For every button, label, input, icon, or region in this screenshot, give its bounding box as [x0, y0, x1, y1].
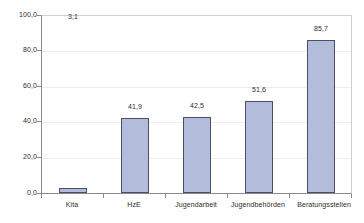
bar-jugendbehoerden[interactable] [245, 101, 273, 193]
x-axis-tick-mark [41, 194, 42, 198]
bar-kita[interactable] [59, 188, 87, 193]
x-axis-tick-mark [103, 194, 104, 198]
bar-hze[interactable] [121, 118, 149, 193]
bar-value-label: 3,1 [68, 13, 78, 21]
y-axis-tick-label: 20,0 [5, 153, 37, 161]
y-axis-tick-label: 0,0 [5, 189, 37, 197]
x-axis-tick-mark [351, 194, 352, 198]
x-axis-category-label-beratungsstellen: Beratungsstellen [286, 200, 362, 209]
x-axis-category-label-jugendarbeit: Jugendarbeit [163, 200, 229, 209]
plot-area: 3,1 41,9 42,5 51,6 85,7 [41, 15, 352, 194]
bar-value-label: 42,5 [190, 102, 204, 110]
bar-group-beratungsstellen: 85,7 [290, 16, 352, 193]
y-axis-tick-label: 60,0 [5, 82, 37, 90]
bar-group-kita: 3,1 [42, 16, 104, 193]
x-axis-category-label-kita: Kita [41, 200, 103, 209]
x-axis-tick-mark [289, 194, 290, 198]
bar-jugendarbeit[interactable] [183, 117, 211, 193]
bar-value-label: 41,9 [128, 103, 142, 111]
y-axis-tick-label: 80,0 [5, 46, 37, 54]
y-axis-tick-label: 40,0 [5, 117, 37, 125]
x-axis-tick-mark [165, 194, 166, 198]
bar-chart: 100,0 80,0 60,0 40,0 20,0 0,0 3,1 41,9 4… [0, 0, 364, 223]
bar-group-jugendarbeit: 42,5 [166, 16, 228, 193]
bar-value-label: 51,6 [252, 86, 266, 94]
bar-value-label: 85,7 [314, 25, 328, 33]
bar-group-hze: 41,9 [104, 16, 166, 193]
x-axis-tick-mark [227, 194, 228, 198]
x-axis-category-label-jugendbehoerden: Jugendbehörden [222, 200, 294, 209]
bar-beratungsstellen[interactable] [307, 40, 335, 193]
bar-group-jugendbehoerden: 51,6 [228, 16, 290, 193]
x-axis-category-label-hze: HzE [103, 200, 165, 209]
y-axis-tick-label: 100,0 [5, 11, 37, 19]
